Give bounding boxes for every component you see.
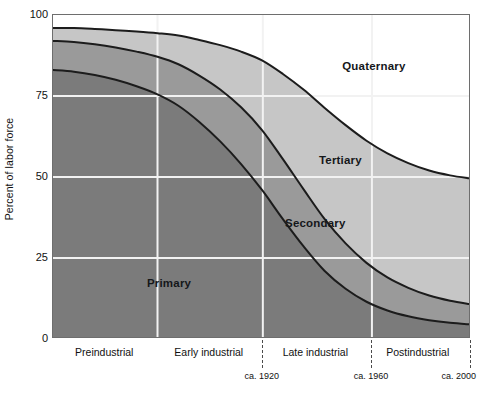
x-marker-label: ca. 2000 [441,371,476,381]
y-tick-label: 100 [18,8,48,20]
y-tick-label: 50 [18,170,48,182]
x-era-label: Preindustrial [75,346,133,358]
x-era-label: Postindustrial [386,346,449,358]
x-marker-tick [371,340,372,368]
y-axis-ticks: 1007550250 [12,0,48,395]
y-tick-label: 25 [18,251,48,263]
x-era-label: Early industrial [174,346,243,358]
chart-figure: Percent of labor force 1007550250 Primar… [0,0,487,395]
x-marker-label: ca. 1960 [354,371,389,381]
x-era-label: Late industrial [283,346,348,358]
y-tick-label: 75 [18,89,48,101]
x-marker-label: ca. 1920 [245,371,280,381]
stacked-area-svg [53,15,470,338]
y-tick-label: 0 [18,332,48,344]
x-marker-tick [470,340,471,368]
plot-area [52,14,470,338]
x-marker-tick [262,340,263,368]
